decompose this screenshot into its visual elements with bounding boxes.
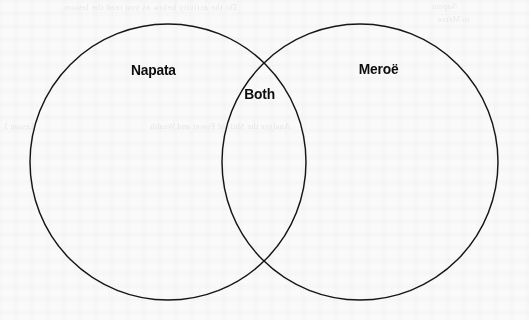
venn-label-left: Napata [131,61,176,78]
venn-label-overlap: Both [244,85,275,102]
venn-label-right: Meroë [359,60,399,77]
worksheet-page: Do the activity below as you read the le… [0,0,529,320]
venn-diagram [0,0,529,320]
